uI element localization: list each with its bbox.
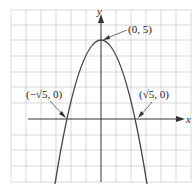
right-intercept-label: (√5, 0)	[139, 88, 169, 101]
left-intercept-label: (−√5, 0)	[26, 88, 62, 101]
vertex-label: (0, 5)	[128, 23, 152, 36]
parabola-chart: x y (0, 5) (−√5, 0) (√5, 0)	[0, 0, 196, 194]
x-axis-arrow-icon	[176, 116, 185, 122]
axes	[28, 18, 180, 182]
y-axis-label: y	[96, 5, 102, 17]
vertex-annotation: (0, 5)	[103, 23, 152, 40]
x-axis-label: x	[185, 113, 191, 125]
